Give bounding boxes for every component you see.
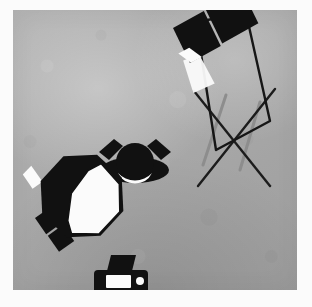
camera-lens (106, 275, 131, 288)
diagram-canvas (13, 10, 297, 290)
camera-viewfinder-hump (107, 255, 136, 271)
camera-shutter-button (136, 277, 144, 285)
lighting-diagram-image (0, 0, 312, 307)
camera-group (13, 10, 297, 290)
